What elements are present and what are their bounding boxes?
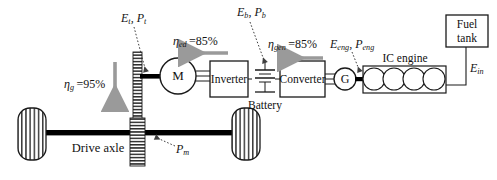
wheel-left xyxy=(18,108,46,160)
label-engine-energy: Eeng, Peng xyxy=(330,38,374,52)
drive-axle-label: Drive axle xyxy=(56,140,140,156)
engine-cylinder xyxy=(383,68,405,90)
hev-powertrain-diagram: Et, Pt Eb, Pb Eeng, Peng Ein Pm ηg =95% … xyxy=(0,0,497,180)
converter-label: Converter xyxy=(280,69,325,89)
motor-label: M xyxy=(160,66,196,86)
label-gearbox-efficiency: ηg =95% xyxy=(64,78,105,92)
label-generator-efficiency: ηgen =85% xyxy=(268,38,317,52)
motor-inverter-bus xyxy=(196,71,211,81)
wheel-right xyxy=(232,108,260,160)
ic-engine-block xyxy=(363,66,446,93)
label-traction-energy: Et, Pt xyxy=(121,12,146,26)
label-mechanical-power: Pm xyxy=(176,143,189,157)
engine-cylinder xyxy=(403,68,425,90)
label-battery-energy: Eb, Pb xyxy=(237,6,266,20)
fuel-tank-label-line2: tank xyxy=(446,31,488,45)
leader-engine xyxy=(352,52,360,72)
engine-cylinder xyxy=(363,68,385,90)
label-fuel-input-energy: Ein xyxy=(470,62,484,76)
engine-cylinder xyxy=(423,68,445,90)
label-electric-drive-efficiency: ηed =85% xyxy=(173,35,218,49)
fuel-line xyxy=(446,43,466,85)
leader-battery xyxy=(250,22,265,63)
inverter-label: Inverter xyxy=(210,69,248,89)
battery-symbol xyxy=(252,61,278,97)
generator-label: G xyxy=(334,70,356,88)
ic-engine-label: IC engine xyxy=(370,50,440,65)
leader-mechanical-power xyxy=(155,137,175,146)
battery-label: Battery xyxy=(240,97,290,112)
fuel-tank-label-line1: Fuel xyxy=(446,17,488,31)
